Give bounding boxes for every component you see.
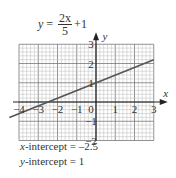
svg-text:−1: −1 bbox=[85, 115, 97, 127]
svg-text:2: 2 bbox=[88, 58, 94, 70]
svg-text:y: y bbox=[102, 30, 108, 42]
svg-text:2: 2 bbox=[132, 103, 138, 115]
x-intercept-label: x-intercept = –2.5 bbox=[20, 140, 98, 152]
svg-text:3: 3 bbox=[88, 38, 94, 50]
svg-text:−4: −4 bbox=[13, 103, 25, 115]
y-intercept-label: y-intercept = 1 bbox=[20, 155, 84, 167]
svg-text:−2: −2 bbox=[52, 103, 64, 115]
svg-text:3: 3 bbox=[151, 103, 157, 115]
svg-text:x: x bbox=[162, 87, 168, 99]
svg-text:1: 1 bbox=[88, 77, 94, 89]
svg-text:0: 0 bbox=[88, 103, 94, 115]
svg-text:1: 1 bbox=[113, 103, 119, 115]
svg-text:−1: −1 bbox=[71, 103, 83, 115]
svg-text:−3: −3 bbox=[32, 103, 44, 115]
